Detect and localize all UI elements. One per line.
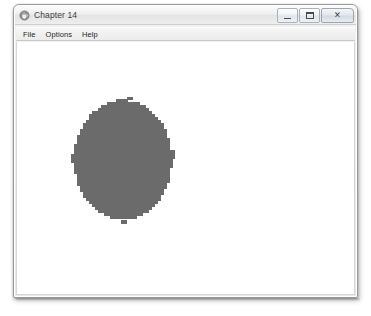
window-drop-shadow — [16, 298, 360, 301]
maximize-icon — [306, 12, 314, 19]
menu-item-options[interactable]: Options — [41, 29, 78, 40]
menu-item-help[interactable]: Help — [77, 29, 103, 40]
ellipse-shape — [17, 42, 355, 295]
minimize-button[interactable] — [277, 8, 298, 23]
close-button[interactable]: ✕ — [321, 8, 354, 23]
shape-layer — [17, 42, 355, 295]
minimize-icon — [284, 18, 291, 19]
title-bar[interactable]: Chapter 14 ✕ — [15, 6, 356, 25]
java-coffee-cup-icon — [19, 10, 30, 21]
window-title: Chapter 14 — [34, 10, 77, 20]
close-icon: ✕ — [334, 11, 341, 20]
window-controls: ✕ — [276, 7, 354, 24]
drawing-canvas[interactable] — [16, 42, 355, 295]
application-window: Chapter 14 ✕ File Options Help — [13, 4, 358, 298]
maximize-button[interactable] — [299, 8, 320, 23]
menu-item-file[interactable]: File — [18, 29, 41, 40]
menu-bar: File Options Help — [16, 27, 355, 41]
